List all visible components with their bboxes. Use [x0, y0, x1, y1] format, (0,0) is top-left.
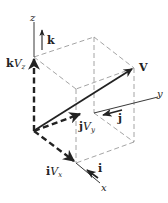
vector-V-label: V	[138, 61, 148, 74]
box-edge-top-back	[34, 37, 94, 57]
vector-components-diagram: z y x k j i V kVz jVy iVx	[0, 0, 168, 203]
jVy-label: jVy	[78, 120, 96, 134]
y-axis-label: y	[156, 88, 163, 99]
z-axis-label: z	[29, 12, 36, 23]
box-edge-bottom-front	[76, 142, 134, 163]
k-label: k	[47, 34, 55, 47]
j-label: j	[117, 112, 122, 125]
iVx-label: iVx	[46, 165, 62, 179]
i-label: i	[98, 162, 102, 175]
box-edge-top-left	[34, 57, 76, 89]
y-axis	[94, 97, 158, 113]
x-axis-label: x	[101, 182, 107, 193]
x-axis	[76, 163, 100, 183]
kVz-label: kVz	[6, 57, 26, 71]
box-edge-top-right	[94, 37, 134, 68]
iVx-arrow	[34, 131, 74, 161]
box-edge-bottom-right	[94, 113, 134, 142]
